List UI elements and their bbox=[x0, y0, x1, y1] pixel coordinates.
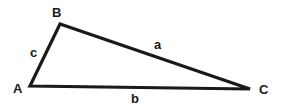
vertex-label-b: B bbox=[52, 5, 61, 20]
side-label-b: b bbox=[131, 91, 139, 104]
side-label-a: a bbox=[154, 37, 162, 52]
vertex-label-a: A bbox=[13, 81, 23, 96]
triangle-shape bbox=[30, 24, 250, 89]
triangle-diagram: B c A a b C bbox=[0, 0, 281, 104]
vertex-label-c: C bbox=[259, 82, 269, 97]
side-label-c: c bbox=[30, 45, 37, 60]
